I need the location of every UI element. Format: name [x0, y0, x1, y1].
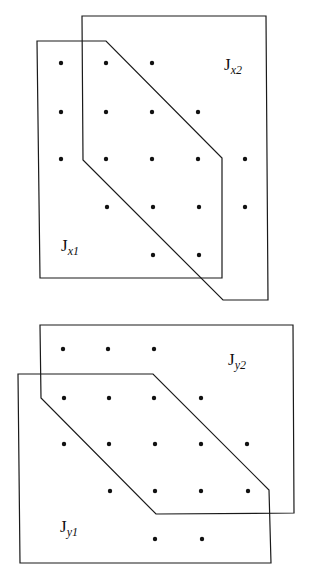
lattice-point — [199, 442, 203, 446]
lattice-point — [199, 396, 203, 400]
label-jy2: Jy2 — [228, 350, 246, 372]
lattice-point — [106, 347, 110, 351]
lattice-point — [105, 205, 109, 209]
lattice-point — [152, 396, 156, 400]
region-jy2 — [40, 325, 294, 514]
lattice-point — [107, 396, 111, 400]
lattice-point — [62, 442, 66, 446]
lattice-point — [196, 157, 200, 161]
lattice-point — [197, 205, 201, 209]
region-jy1 — [18, 374, 271, 563]
lattice-point — [104, 110, 108, 114]
lattice-point — [104, 61, 108, 65]
lattice-point — [153, 537, 157, 541]
lattice-point — [245, 442, 249, 446]
lattice-point — [243, 205, 247, 209]
label-jx1: Jx1 — [61, 236, 79, 258]
lattice-point — [197, 253, 201, 257]
lattice-point — [151, 205, 155, 209]
label-jy1: Jy1 — [60, 517, 78, 539]
lattice-point — [61, 347, 65, 351]
lattice-point — [200, 537, 204, 541]
lattice-point — [196, 110, 200, 114]
lattice-point — [153, 489, 157, 493]
lattice-points — [59, 61, 250, 541]
lattice-point — [199, 489, 203, 493]
lattice-point — [107, 442, 111, 446]
label-jx2: Jx2 — [224, 55, 242, 77]
lattice-point — [153, 442, 157, 446]
lattice-point — [152, 347, 156, 351]
lattice-point — [150, 157, 154, 161]
region-outlines — [18, 16, 294, 563]
lattice-point — [62, 396, 66, 400]
lattice-point — [59, 110, 63, 114]
lattice-point — [150, 110, 154, 114]
lattice-point — [246, 489, 250, 493]
lattice-point — [59, 157, 63, 161]
lattice-point — [243, 157, 247, 161]
lattice-point — [150, 61, 154, 65]
lattice-point — [59, 61, 63, 65]
region-jx2 — [82, 16, 268, 300]
lattice-point — [108, 489, 112, 493]
lattice-point — [151, 253, 155, 257]
diagram-canvas: Jx2 Jx1 Jy2 Jy1 — [0, 0, 311, 583]
lattice-point — [104, 157, 108, 161]
